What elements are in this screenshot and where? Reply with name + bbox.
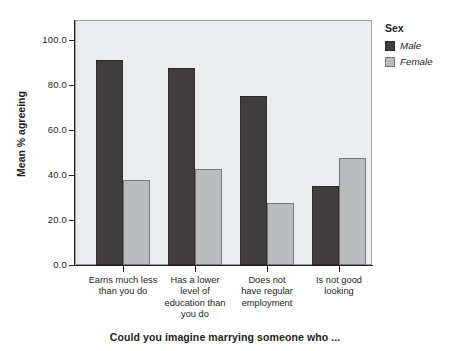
bar-male-4 xyxy=(312,186,339,265)
bar-female-3 xyxy=(267,203,294,265)
bar-male-2 xyxy=(168,68,195,265)
x-axis-tick xyxy=(123,266,124,272)
bar-chart-figure: 0.020.040.060.080.0100.0 Mean % agreeing… xyxy=(0,0,450,351)
x-axis-tick xyxy=(339,266,340,272)
y-axis-tick-label: 80.0 xyxy=(48,79,67,90)
legend-label: Male xyxy=(400,40,421,51)
y-axis-tick xyxy=(69,130,75,131)
legend-swatch-male xyxy=(385,41,395,51)
legend-item-male: Male xyxy=(385,40,450,51)
x-axis-tick xyxy=(195,266,196,272)
legend-swatch-female xyxy=(385,57,395,67)
y-axis-tick xyxy=(69,85,75,86)
y-axis-tick xyxy=(69,40,75,41)
x-axis-title: Could you imagine marrying someone who .… xyxy=(0,331,450,343)
y-axis-tick-label: 0.0 xyxy=(53,259,67,270)
legend: Sex MaleFemale xyxy=(385,22,450,72)
y-axis-tick xyxy=(69,220,75,221)
bar-male-3 xyxy=(240,96,267,265)
y-axis-tick xyxy=(69,175,75,176)
bar-female-2 xyxy=(195,169,222,265)
x-axis-category-label: Is not goodlooking xyxy=(296,275,382,298)
bar-female-1 xyxy=(123,180,150,265)
x-axis-line xyxy=(74,265,373,266)
y-axis-tick-label: 100.0 xyxy=(42,34,67,45)
legend-title: Sex xyxy=(385,22,450,34)
bar-female-4 xyxy=(339,158,366,265)
legend-label: Female xyxy=(400,56,433,67)
y-axis-tick-label: 40.0 xyxy=(48,169,67,180)
legend-item-female: Female xyxy=(385,56,450,67)
legend-items: MaleFemale xyxy=(385,40,450,67)
bars-layer xyxy=(76,21,371,265)
y-axis-line xyxy=(74,20,75,266)
bar-male-1 xyxy=(96,60,123,265)
x-axis-tick xyxy=(267,266,268,272)
y-axis-tick-label: 20.0 xyxy=(48,214,67,225)
y-axis-title: Mean % agreeing xyxy=(15,74,27,194)
y-axis-tick-label: 60.0 xyxy=(48,124,67,135)
